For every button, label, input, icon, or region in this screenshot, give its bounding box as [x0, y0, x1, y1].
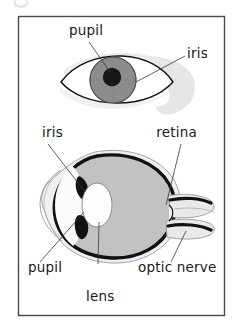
- eye-anatomy-svg: pupil iris iris retina pupil optic nerve…: [0, 0, 239, 332]
- pupil-circle: [103, 68, 121, 86]
- lens-oval: [82, 183, 112, 227]
- label-optic-nerve: optic nerve: [138, 259, 217, 275]
- label-lens: lens: [86, 288, 114, 304]
- label-pupil-top: pupil: [69, 22, 103, 38]
- label-retina: retina: [156, 124, 197, 140]
- label-pupil-bottom: pupil: [28, 259, 62, 275]
- label-iris-bottom: iris: [42, 124, 63, 140]
- label-iris-top: iris: [187, 45, 208, 61]
- eye-anatomy-figure: pupil iris iris retina pupil optic nerve…: [0, 0, 239, 332]
